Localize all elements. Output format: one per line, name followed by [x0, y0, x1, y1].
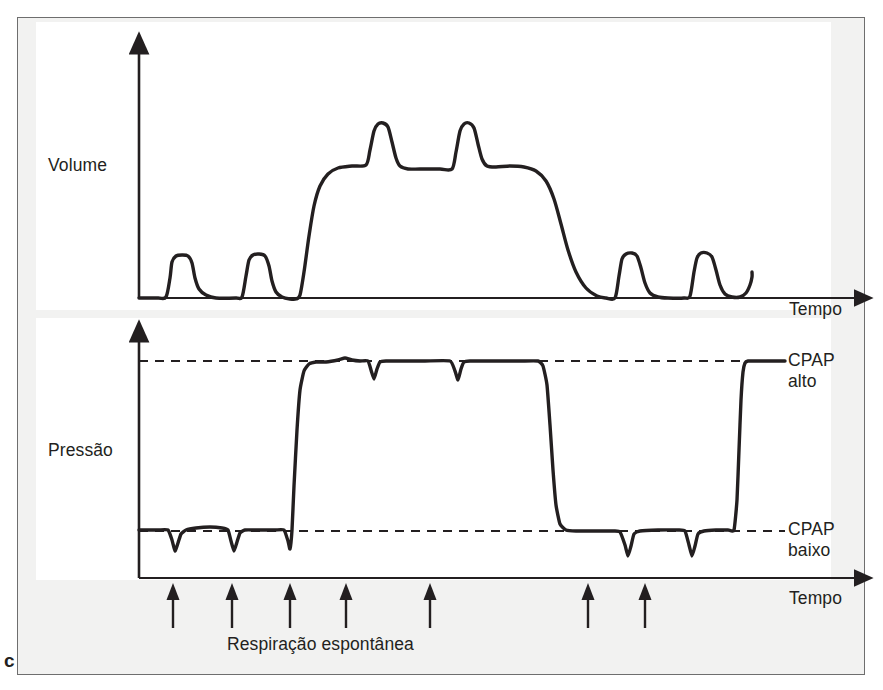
volume-chart [139, 52, 856, 299]
pressure-waveform-trace [139, 358, 785, 556]
spontaneous-breath-arrow-7 [639, 583, 652, 628]
spontaneous-breath-arrow-4 [340, 583, 353, 628]
spontaneous-breath-arrow-group [167, 583, 652, 628]
spontaneous-breath-arrow-3 [284, 583, 297, 628]
spontaneous-breath-arrow-6 [582, 583, 595, 628]
volume-axis-label: Volume [48, 155, 107, 176]
pressure-chart [139, 340, 856, 578]
spontaneous-breath-arrow-2 [226, 583, 239, 628]
spontaneous-breath-arrow-5 [424, 583, 437, 628]
waveform-svg-layer [0, 0, 883, 690]
pressure-time-axis-label: Tempo [789, 588, 842, 609]
volume-time-axis-label: Tempo [789, 299, 842, 320]
spontaneous-breath-label: Respiração espontânea [227, 634, 414, 655]
volume-waveform-trace [139, 123, 752, 300]
figure-root: Volume Pressão Tempo Tempo CPAP alto CPA… [0, 0, 883, 690]
cpap-alto-label: CPAP alto [788, 350, 835, 392]
pressure-axis-label: Pressão [48, 440, 113, 461]
cpap-baixo-label: CPAP baixo [788, 519, 835, 561]
panel-identifier: c [4, 650, 15, 671]
spontaneous-breath-arrow-1 [167, 583, 180, 628]
